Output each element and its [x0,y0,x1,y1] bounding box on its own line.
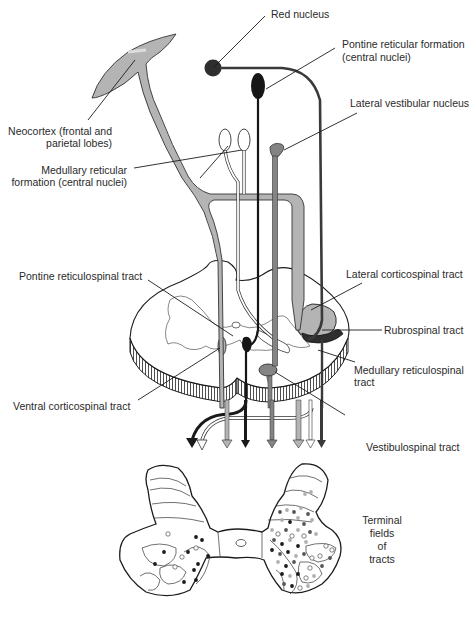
label-medullary-rf-line2: formation (central nuclei) [0,176,127,189]
descending-arrows [186,400,326,450]
label-neocortex-line2: parietal lobes) [0,137,112,150]
label-terminal-line4: tracts [352,553,412,566]
label-medullary-reticulospinal-line2: tract [354,376,374,389]
label-terminal-line3: of [352,540,412,553]
label-lateral-vestibular: Lateral vestibular nucleus [350,97,469,110]
label-ventral-corticospinal: Ventral corticospinal tract [13,400,130,413]
label-red-nucleus: Red nucleus [271,8,329,21]
label-pontine-reticulospinal: Pontine reticulospinal tract [19,270,142,283]
gray-matter-terminal-fields [120,464,341,596]
label-pontine-rf-line2: (central nuclei) [342,51,411,64]
label-rubrospinal: Rubrospinal tract [384,324,463,337]
label-terminal-line2: fields [352,527,412,540]
label-lateral-corticospinal: Lateral corticospinal tract [346,268,463,281]
label-pontine-rf-line1: Pontine reticular formation [342,38,465,51]
label-terminal-line1: Terminal [352,514,412,527]
label-vestibulospinal: Vestibulospinal tract [366,441,459,454]
